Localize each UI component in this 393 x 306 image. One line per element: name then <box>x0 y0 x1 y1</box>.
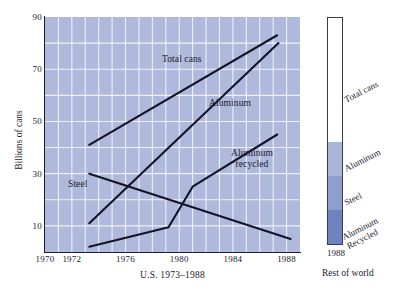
bar-key-total-cans: Total cans <box>343 79 380 105</box>
y-tick-90: 90 <box>0 13 42 22</box>
series-annotation-aluminum: Aluminum <box>209 98 251 109</box>
bar-segment-aluminum-recycled <box>328 210 342 244</box>
x-tick-1984: 1984 <box>223 254 242 264</box>
series-annotation-aluminum-recycled: Aluminum recycled <box>222 148 282 169</box>
x-axis-title: U.S. 1973–1988 <box>45 270 300 280</box>
x-tick-1972: 1972 <box>62 254 81 264</box>
y-axis-title: Billions of cans <box>14 85 24 195</box>
x-tick-1976: 1976 <box>116 254 135 264</box>
x-axis-spine <box>44 252 301 253</box>
series-line-total-cans <box>89 35 277 145</box>
plot-area <box>45 17 300 252</box>
x-tick-1988: 1988 <box>277 254 296 264</box>
series-annotation-steel: Steel <box>68 179 88 190</box>
stacked-bar-year-label: 1988 <box>327 248 343 258</box>
x-tick-1970: 1970 <box>36 254 55 264</box>
bar-segment-total-cans <box>328 18 342 142</box>
chart-figure: 1030507090 197019721976198019841988 Bill… <box>0 0 393 306</box>
stacked-bar-caption: Rest of world <box>322 268 384 279</box>
series-annotation-total-cans: Total cans <box>162 54 202 65</box>
bar-key-aluminum-recycled: Aluminum Recycled <box>340 208 393 251</box>
bar-segment-aluminum <box>328 142 342 176</box>
y-tick-70: 70 <box>0 65 42 74</box>
bar-key-steel: Steel <box>343 190 364 207</box>
y-tick-10: 10 <box>0 221 42 230</box>
bar-key-aluminum: Aluminum <box>343 146 382 173</box>
series-lines <box>45 17 300 252</box>
bar-segment-steel <box>328 176 342 210</box>
series-line-steel <box>89 174 290 239</box>
stacked-legend-bar <box>327 17 343 245</box>
series-line-aluminum <box>89 43 278 223</box>
x-tick-1980: 1980 <box>170 254 189 264</box>
y-axis-spine <box>44 16 45 253</box>
